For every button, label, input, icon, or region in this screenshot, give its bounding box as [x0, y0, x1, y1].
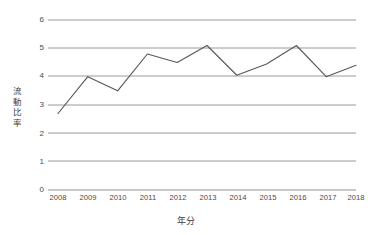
line-chart: 流 動 比 率 6 5 4 3 2 1 0 2008 2009 2010 201…	[0, 0, 371, 235]
x-axis-tick-2013: 2013	[193, 194, 223, 202]
x-axis-tick-2014: 2014	[223, 194, 253, 202]
x-axis-tick-2017: 2017	[313, 194, 343, 202]
x-axis-title: 年分	[0, 214, 371, 227]
x-axis-tick-2016: 2016	[283, 194, 313, 202]
x-axis-tick-2011: 2011	[133, 194, 163, 202]
gridlines	[48, 20, 356, 190]
x-axis-tick-2018: 2018	[341, 194, 371, 202]
data-series-line	[58, 46, 356, 114]
x-axis-tick-2008: 2008	[43, 194, 73, 202]
x-axis-tick-2015: 2015	[253, 194, 283, 202]
x-axis-tick-2009: 2009	[73, 194, 103, 202]
x-axis-tick-2010: 2010	[103, 194, 133, 202]
x-axis-tick-2012: 2012	[163, 194, 193, 202]
